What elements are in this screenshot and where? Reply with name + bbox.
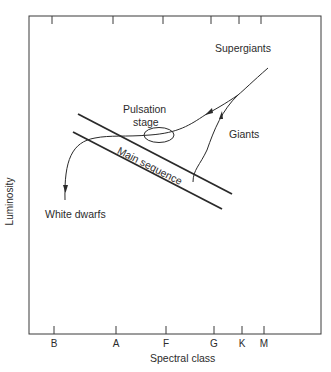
y-axis-label: Luminosity [4,178,15,226]
tick-label-b: B [51,338,58,349]
label-stage: stage [133,116,159,128]
arrow-left-icon [205,108,213,115]
label-supergiants: Supergiants [215,42,271,54]
arrow-up-icon [219,111,223,119]
hr-diagram [0,0,331,372]
tick-label-m: M [260,338,268,349]
label-white-dwarfs: White dwarfs [45,208,106,220]
tick-label-g: G [210,338,218,349]
label-giants: Giants [229,128,259,140]
tick-label-k: K [239,338,246,349]
bottom-ticks [54,326,264,334]
top-ticks [52,16,261,24]
arrow-down-icon [63,185,68,193]
tick-label-f: F [163,338,169,349]
label-pulsation: Pulsation [123,103,166,115]
x-axis-label: Spectral class [150,352,215,364]
tick-label-a: A [113,338,120,349]
